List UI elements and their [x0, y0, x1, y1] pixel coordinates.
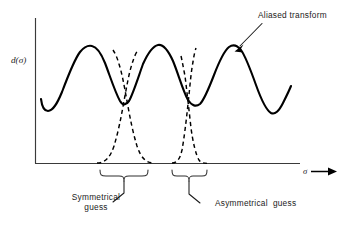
axes-group [35, 18, 300, 164]
x-axis-label: σ [303, 166, 307, 176]
aliased-transform-curve [41, 45, 291, 114]
asymmetrical-guess-curve-right [181, 56, 209, 163]
symmetrical-guess-label-line2: guess [84, 202, 107, 212]
asymmetrical-guess-label: Asymmetrical guess [215, 199, 296, 209]
symmetrical-guess-curve-right [113, 50, 154, 163]
aliased-transform-curve-group [41, 45, 291, 114]
aliased-transform-label: Aliased transform [258, 11, 327, 21]
symmetrical-guess-label: Symmetricalguess [60, 193, 132, 213]
symmetrical-guess-label-line1: Symmetrical [72, 192, 120, 202]
figure-container: Aliased transform d(σ) σ Symmetricalgues… [0, 0, 342, 229]
y-axis-label: d(σ) [11, 55, 26, 66]
symmetrical-guess-curve-left [97, 50, 138, 163]
figure-svg [0, 0, 342, 229]
asymmetrical-guess-curves [172, 48, 209, 163]
x-axis-arrow-icon [311, 168, 337, 176]
asymmetrical-guess-brace [172, 170, 207, 203]
